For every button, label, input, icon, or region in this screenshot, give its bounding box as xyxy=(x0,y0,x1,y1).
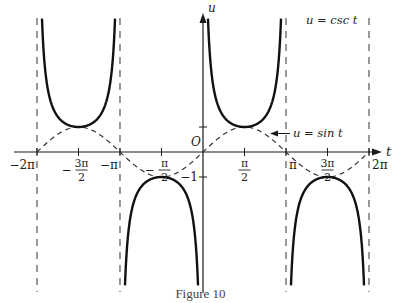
x-tick-label-numerator: π xyxy=(161,157,168,170)
x-tick-label-denominator: 2 xyxy=(241,171,248,184)
x-tick-label: −π xyxy=(100,158,118,172)
x-tick-label-sign: − xyxy=(61,163,71,177)
csc-curve-label: u = csc t xyxy=(306,13,358,27)
x-tick-label: 2π xyxy=(372,158,388,172)
axes xyxy=(14,13,382,292)
origin-label: O xyxy=(191,135,201,149)
sin-label-pointer xyxy=(270,131,290,137)
t-axis-arrow-icon xyxy=(372,149,382,156)
csc-sin-graph: −2π3π2−−ππ2−π2π3π22π−1 t u O u = csc t u… xyxy=(0,0,401,303)
t-axis-label: t xyxy=(386,144,392,159)
x-tick-label-sign: − xyxy=(144,163,154,177)
csc-branch xyxy=(291,177,364,285)
x-tick-label: π xyxy=(289,158,297,172)
pointer-arrow-icon xyxy=(270,131,278,137)
csc-branch xyxy=(208,19,281,127)
x-tick-label-denominator: 2 xyxy=(78,171,85,184)
x-tick-label-denominator: 2 xyxy=(161,171,168,184)
u-axis-arrow-icon xyxy=(200,13,207,23)
x-tick-label-denominator: 2 xyxy=(324,171,331,184)
x-tick-label: −2π xyxy=(9,158,35,172)
csc-branch xyxy=(42,19,115,127)
x-tick-label-numerator: 3π xyxy=(320,157,334,170)
u-axis-label: u xyxy=(208,1,216,15)
x-tick-label-numerator: 3π xyxy=(74,157,88,170)
tick-labels: −2π3π2−−ππ2−π2π3π22π−1 xyxy=(9,157,387,184)
csc-branch xyxy=(125,177,198,285)
figure-caption: Figure 10 xyxy=(0,286,401,302)
x-tick-label-numerator: π xyxy=(241,157,248,170)
y-tick-label: −1 xyxy=(180,170,198,184)
sin-curve-label: u = sin t xyxy=(293,126,343,140)
